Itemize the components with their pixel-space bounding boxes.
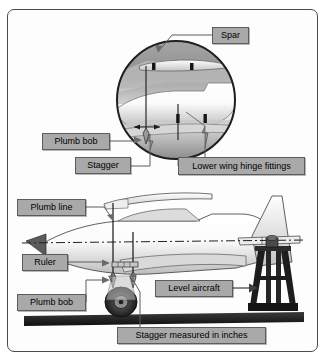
- tail-trestle: [248, 235, 298, 311]
- label-level-aircraft[interactable]: Level aircraft: [155, 280, 233, 297]
- label-spar[interactable]: Spar: [212, 27, 249, 44]
- figure-root: Spar Plumb bob Stagger Lower wing hinge …: [0, 0, 328, 361]
- label-lower-wing-hinge-fittings[interactable]: Lower wing hinge fittings: [178, 157, 305, 175]
- label-stagger[interactable]: Stagger: [75, 157, 131, 174]
- hinge-fitting-front: [176, 114, 179, 123]
- ruler-icon: [112, 262, 138, 267]
- canopy: [118, 209, 200, 221]
- label-plumb-bob-detail[interactable]: Plumb bob: [42, 133, 110, 150]
- circular-detail-inset: [110, 35, 243, 166]
- label-plumb-bob-side[interactable]: Plumb bob: [17, 294, 86, 311]
- label-plumb-line[interactable]: Plumb line: [17, 199, 86, 216]
- spinner: [26, 234, 46, 256]
- ground-surface: [24, 312, 304, 326]
- hinge-fitting-rear: [204, 114, 207, 123]
- label-stagger-measured-in-inches[interactable]: Stagger measured in inches: [117, 327, 266, 344]
- label-ruler[interactable]: Ruler: [22, 254, 68, 271]
- upper-wing-leading-edge: [104, 199, 128, 209]
